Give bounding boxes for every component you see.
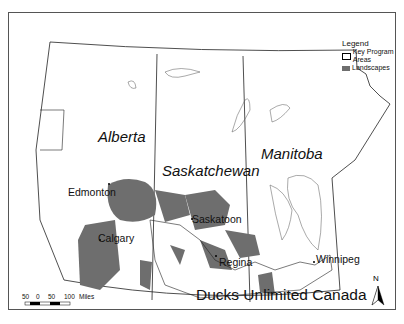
outline-swatch-icon: [342, 53, 351, 60]
scale-bar: [25, 302, 70, 305]
filled-swatch-icon: [342, 66, 350, 71]
legend-heading: Legend: [342, 40, 404, 48]
map-title: Ducks Unlimited Canada: [196, 286, 367, 304]
city-edmonton: Edmonton: [68, 186, 116, 198]
scale-tick: 100: [64, 293, 75, 300]
city-regina: Regina: [219, 256, 252, 268]
city-saskatoon: Saskatoon: [192, 213, 242, 225]
label-alberta: Alberta: [98, 128, 146, 145]
scale-tick: 0: [36, 293, 40, 300]
city-calgary: Calgary: [98, 232, 134, 244]
city-winnipeg: Winnipeg: [316, 253, 360, 265]
scale-tick: 50: [48, 293, 55, 300]
label-manitoba: Manitoba: [261, 145, 323, 162]
north-label: N: [373, 274, 379, 283]
legend-item-landscapes: Landscapes: [342, 64, 404, 72]
legend-item-key-program-areas: Key Program Areas: [342, 48, 404, 64]
scale-tick: 50: [22, 293, 29, 300]
scale-unit: Miles: [79, 293, 94, 300]
legend: Legend Key Program Areas Landscapes: [342, 40, 404, 72]
label-saskatchewan: Saskatchewan: [162, 162, 260, 179]
